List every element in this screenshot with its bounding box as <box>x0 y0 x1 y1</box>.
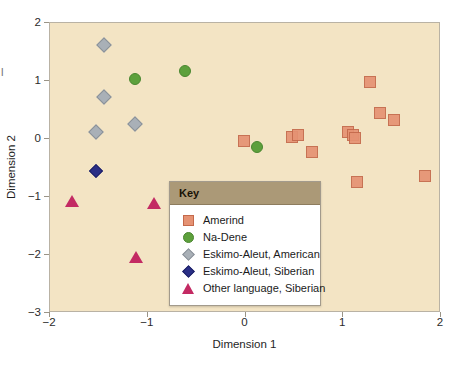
x-axis-tick-label: 1 <box>339 316 345 328</box>
legend-triangle-icon <box>182 283 194 294</box>
y-axis-tick <box>44 312 49 313</box>
y-axis-tick-label: −2 <box>28 248 41 260</box>
data-point <box>238 135 250 147</box>
legend-item-label: Other language, Siberian <box>203 282 325 294</box>
y-axis-tick-label: −3 <box>28 306 41 318</box>
data-point <box>388 114 400 126</box>
legend-square-icon <box>183 215 194 226</box>
legend-header: Key <box>170 182 320 205</box>
y-axis-tick <box>44 22 49 23</box>
data-point <box>147 197 161 209</box>
legend-item-label: Amerind <box>203 214 244 226</box>
legend: Key AmerindNa-DeneEskimo-Aleut, American… <box>169 181 321 306</box>
legend-item-label: Eskimo-Aleut, American <box>203 248 320 260</box>
y-axis-tick-label: 0 <box>35 132 41 144</box>
y-axis-tick <box>44 138 49 139</box>
cropped-text-fragment: l <box>1 66 4 78</box>
legend-marker-icon <box>178 232 198 243</box>
legend-circle-icon <box>183 232 194 243</box>
legend-item-label: Na-Dene <box>203 231 247 243</box>
y-axis-tick-label: −1 <box>28 190 41 202</box>
x-axis-tick-label: 2 <box>437 316 443 328</box>
legend-item: Na-Dene <box>178 229 312 245</box>
legend-diamond-icon <box>182 248 195 261</box>
legend-marker-icon <box>178 250 198 259</box>
data-point <box>419 170 431 182</box>
legend-item: Other language, Siberian <box>178 280 312 296</box>
data-point <box>351 176 363 188</box>
data-point <box>306 146 318 158</box>
data-point <box>251 141 263 153</box>
y-axis-tick <box>44 196 49 197</box>
legend-marker-icon <box>178 267 198 276</box>
data-point <box>292 129 304 141</box>
data-point <box>179 65 191 77</box>
data-point <box>374 107 386 119</box>
y-axis-tick-label: 1 <box>35 74 41 86</box>
x-axis-tick-label: −1 <box>140 316 153 328</box>
x-axis-tick-label: −2 <box>42 316 55 328</box>
scatter-plot-figure: l −2−1012210−1−2−3 Dimension 1 Dimension… <box>0 0 452 366</box>
legend-body: AmerindNa-DeneEskimo-Aleut, AmericanEski… <box>170 205 320 305</box>
legend-item-label: Eskimo-Aleut, Siberian <box>203 265 314 277</box>
data-point <box>129 73 141 85</box>
legend-item: Eskimo-Aleut, Siberian <box>178 263 312 279</box>
y-axis-tick <box>44 80 49 81</box>
y-axis-tick <box>44 254 49 255</box>
legend-marker-icon <box>178 283 198 294</box>
legend-marker-icon <box>178 215 198 226</box>
data-point <box>129 251 143 263</box>
legend-item: Amerind <box>178 212 312 228</box>
data-point <box>65 195 79 207</box>
y-axis-tick-label: 2 <box>35 16 41 28</box>
x-axis-tick-label: 0 <box>241 316 247 328</box>
data-point <box>349 132 361 144</box>
x-axis-label: Dimension 1 <box>49 338 440 350</box>
legend-item: Eskimo-Aleut, American <box>178 246 312 262</box>
legend-diamond-dark-icon <box>182 265 195 278</box>
y-axis-label: Dimension 2 <box>5 135 17 199</box>
data-point <box>364 76 376 88</box>
